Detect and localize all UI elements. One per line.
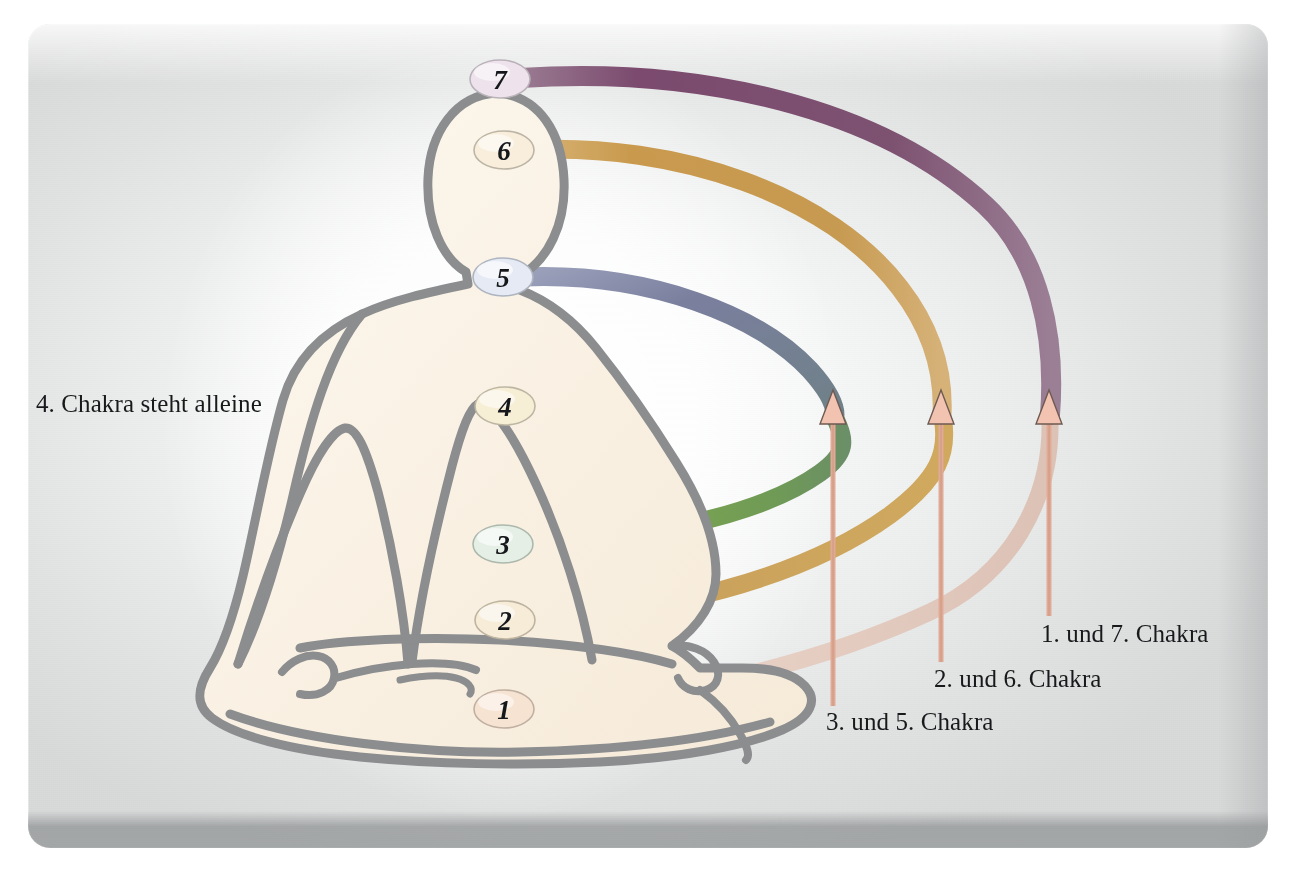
chakra-badge-2[interactable]: 2 [475, 601, 535, 639]
annotation-pair-2-6: 2. und 6. Chakra [934, 665, 1102, 693]
annotation-pair-1-7: 1. und 7. Chakra [1041, 620, 1209, 648]
chakra-badge-3-label: 3 [495, 530, 510, 560]
chakra-badge-6[interactable]: 6 [474, 131, 534, 169]
chakra-badge-6-label: 6 [497, 136, 511, 166]
chakra-badge-5-label: 5 [496, 263, 510, 293]
chakra-badge-1[interactable]: 1 [474, 690, 534, 728]
chakra-badge-3[interactable]: 3 [473, 525, 533, 563]
chakra-badge-1-label: 1 [497, 695, 511, 725]
chakra-badge-4-label: 4 [497, 392, 512, 422]
illustration-stage: 7 6 5 4 3 [0, 0, 1289, 872]
chakra-badge-7[interactable]: 7 [470, 60, 530, 98]
chakra-badge-2-label: 2 [497, 606, 512, 636]
chakra-badge-5[interactable]: 5 [473, 258, 533, 296]
chakra-diagram-svg: 7 6 5 4 3 [0, 0, 1289, 872]
pair-arrows [820, 390, 1062, 706]
annotation-chakra-4-alone: 4. Chakra steht alleine [36, 390, 262, 418]
chakra-badge-7-label: 7 [493, 65, 508, 95]
chakra-badge-4[interactable]: 4 [475, 387, 535, 425]
annotation-pair-3-5: 3. und 5. Chakra [826, 708, 994, 736]
